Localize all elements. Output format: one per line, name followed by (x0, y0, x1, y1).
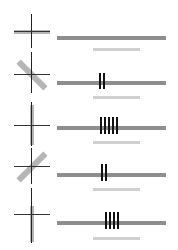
light-bar (93, 96, 140, 99)
tick-mark (101, 164, 103, 181)
crosshair-horizontal (14, 166, 50, 167)
tick-mark (104, 117, 106, 134)
main-bar (57, 221, 166, 225)
tick-mark (113, 212, 115, 229)
tick-mark (100, 117, 102, 134)
orientation-bar-diagonal-up (16, 151, 47, 182)
light-bar (93, 188, 140, 191)
tick-mark (99, 73, 101, 89)
tick-mark (116, 117, 118, 134)
light-bar (93, 48, 140, 51)
crosshair-vertical (31, 195, 32, 243)
main-bar (57, 81, 166, 85)
tick-mark (108, 117, 110, 134)
crosshair-vertical (31, 57, 32, 93)
crosshair-horizontal (14, 125, 50, 126)
tick-mark (105, 212, 107, 229)
light-bar (93, 141, 140, 144)
main-bar (57, 173, 166, 177)
main-bar (57, 36, 166, 40)
tick-mark (112, 117, 114, 134)
orientation-bar-diagonal-down (16, 59, 47, 90)
crosshair-vertical (31, 102, 32, 146)
tick-mark (117, 212, 119, 229)
tick-mark (105, 164, 107, 181)
crosshair-horizontal (14, 31, 50, 32)
light-bar (93, 237, 140, 240)
crosshair-vertical (31, 150, 32, 184)
crosshair-horizontal (14, 74, 50, 75)
tick-mark (109, 212, 111, 229)
crosshair-horizontal (14, 214, 50, 215)
tick-mark (103, 73, 105, 89)
